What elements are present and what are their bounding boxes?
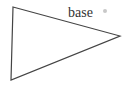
dot-mark-icon (103, 9, 107, 13)
base-label: base (68, 6, 93, 20)
triangle-shape (11, 7, 120, 80)
triangle-diagram (0, 0, 127, 87)
